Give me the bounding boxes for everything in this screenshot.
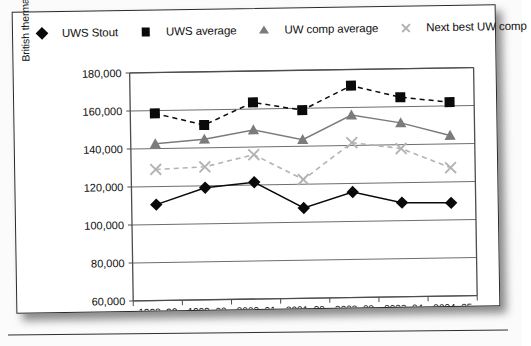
x-tick-label: 2001–02 [286,304,326,313]
x-tick-label: 2002–03 [335,303,375,313]
line-chart-canvas: 60,00080,000100,000120,000140,000160,000… [13,5,500,313]
x-tick-label: 1998–99 [138,306,178,313]
data-point-marker [150,108,160,118]
y-tick-label: 100,000 [84,219,124,232]
data-point-marker [248,124,259,134]
data-point-marker [150,198,163,211]
y-tick-label: 120,000 [84,181,124,194]
data-point-marker [445,162,456,173]
x-tick-label: 1999–00 [188,305,228,312]
data-point-marker [395,92,405,102]
chart-plot-area: British thermal unit/gross square feet/y… [13,5,500,313]
data-point-marker [298,174,309,185]
gridline [133,258,477,263]
gridline [131,144,475,149]
series-line [154,84,449,126]
data-point-marker [248,149,259,160]
data-point-marker [396,196,409,209]
x-tick-label: 2003–04 [384,302,424,312]
data-point-marker [297,105,307,115]
data-point-marker [346,186,359,199]
data-point-marker [297,202,310,215]
data-point-marker [248,97,258,107]
page-bottom-rule [8,330,508,336]
x-tick-label: 2004–05 [433,302,473,313]
y-tick-label: 60,000 [91,295,125,308]
y-tick-label: 160,000 [82,105,122,118]
y-tick-label: 80,000 [91,257,125,270]
data-point-marker [199,181,212,194]
data-point-marker [199,120,209,130]
chart-page-sheet: UWS Stout UWS average UW c [12,4,501,314]
y-tick-label: 140,000 [83,143,123,156]
gridline [132,220,476,225]
data-point-marker [444,97,454,107]
data-point-marker [346,81,356,91]
gridlines [130,68,478,301]
x-tick-label: 2000–01 [237,305,277,313]
data-point-marker [445,197,458,210]
y-tick-label: 180,000 [82,67,122,80]
gridline [131,182,475,187]
y-axis-tick-labels: 60,00080,000100,000120,000140,000160,000… [82,67,134,308]
data-point-marker [346,109,357,119]
series-uws-average [149,79,455,131]
data-point-marker [248,176,261,189]
